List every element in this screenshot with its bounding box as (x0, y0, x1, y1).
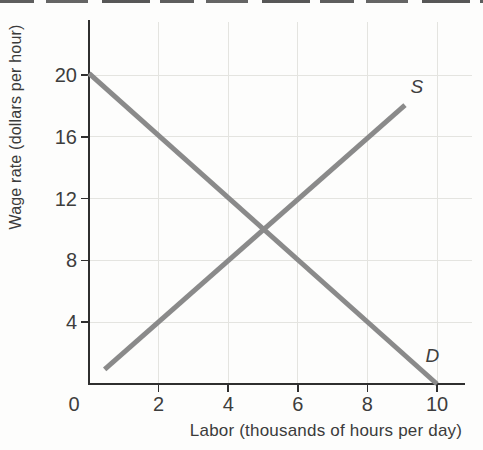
supply-curve (105, 105, 405, 369)
supply-curve-label: S (410, 76, 423, 98)
demand-curve-label: D (426, 345, 440, 367)
y-tick-label-12: 12 (17, 189, 77, 209)
x-tick-label-2: 2 (129, 394, 189, 414)
x-axis-title: Labor (thousands of hours per day) (190, 421, 462, 441)
x-tick-label-0: 0 (44, 394, 104, 414)
x-tick-label-8: 8 (337, 394, 397, 414)
y-tick-label-4: 4 (17, 312, 77, 332)
y-tick-label-20: 20 (17, 65, 77, 85)
y-tick-label-8: 8 (17, 250, 77, 270)
x-tick-label-10: 10 (407, 394, 467, 414)
x-tick-label-6: 6 (268, 394, 328, 414)
y-tick-label-16: 16 (17, 127, 77, 147)
x-tick-label-4: 4 (198, 394, 258, 414)
labor-market-supply-demand-figure: Wage rate (dollars per hour) Labor (thou… (0, 0, 483, 450)
